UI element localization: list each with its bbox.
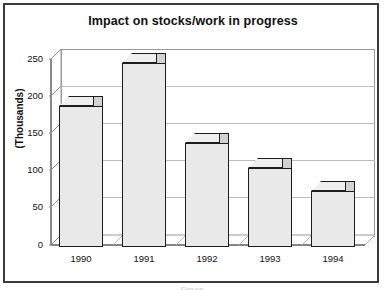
x-tick-label-1993: 1993 (240, 253, 300, 264)
y-tick-label-100: 100 (13, 164, 43, 175)
y-tick-label-200: 200 (13, 90, 43, 101)
clipped-caption: Figure (0, 284, 384, 290)
bar-1991[interactable] (122, 63, 166, 247)
bar-1993[interactable] (248, 168, 292, 247)
plot-area: 250 200 150 100 50 0 (49, 49, 375, 255)
bar-1992[interactable] (185, 143, 229, 247)
y-tick-label-50: 50 (13, 201, 43, 212)
bar-1994[interactable] (311, 191, 355, 247)
gridline-150 (61, 123, 375, 124)
bar-front-face (311, 191, 355, 247)
bar-front-face (59, 106, 103, 247)
x-tick-label-1991: 1991 (114, 253, 174, 264)
gridline-200 (61, 86, 375, 87)
y-tick-label-250: 250 (13, 53, 43, 64)
bar-front-face (122, 63, 166, 247)
x-tick-label-1990: 1990 (51, 253, 111, 264)
chart-frame: Impact on stocks/work in progress (Thous… (3, 3, 379, 283)
x-tick-label-1992: 1992 (177, 253, 237, 264)
y-tick-label-0: 0 (13, 239, 43, 250)
y-tick-label-150: 150 (13, 127, 43, 138)
bar-front-face (248, 168, 292, 247)
x-tick-label-1994: 1994 (303, 253, 363, 264)
bar-1990[interactable] (59, 106, 103, 247)
bar-front-face (185, 143, 229, 247)
chart-title: Impact on stocks/work in progress (5, 14, 381, 28)
